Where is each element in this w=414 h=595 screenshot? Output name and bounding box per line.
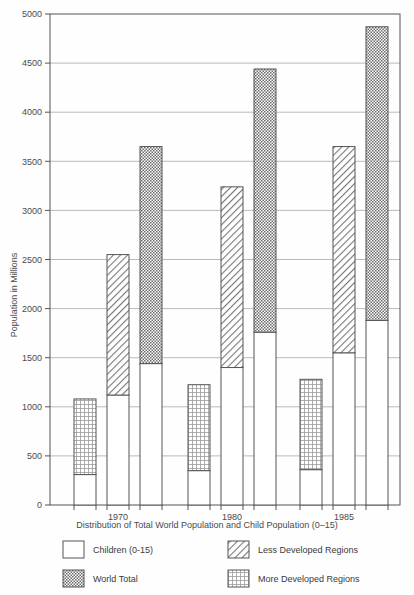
bar-segment-upper [107,255,129,395]
bar-segment-children [188,471,210,505]
legend-label-children-0-15: Children (0-15) [93,545,153,555]
bar-segment-upper [74,399,96,475]
bar-segment-upper [221,187,243,368]
y-tick-label: 5000 [22,9,42,19]
bar-1970-more-developed-regions [74,399,96,505]
bar-segment-upper [366,27,388,321]
legend-swatch-children-0-15 [63,541,84,558]
bar-segment-children [107,395,129,505]
bar-segment-upper [300,379,322,469]
bars-group [74,27,388,505]
legend-swatch-less-developed-regions [228,541,249,558]
bar-segment-children [221,368,243,505]
y-tick-label: 4000 [22,107,42,117]
population-bar-chart: Population in Millions 05001000150020002… [0,0,414,595]
bar-segment-children [300,470,322,505]
bar-segment-upper [254,69,276,332]
y-tick-labels-group: 0500100015002000250030003500400045005000 [22,9,42,510]
bar-segment-children [140,364,162,505]
legend-label-less-developed-regions: Less Developed Regions [258,545,359,555]
bar-1980-world-total [254,69,276,505]
bar-1985-world-total [366,27,388,505]
y-tick-label: 3500 [22,157,42,167]
bar-segment-children [333,353,355,505]
bar-1985-less-developed-regions [333,147,355,505]
legend-label-world-total: World Total [93,574,138,584]
chart-figure: Population in Millions 05001000150020002… [0,0,414,595]
bar-1970-less-developed-regions [107,255,129,505]
legend-swatch-more-developed-regions [228,570,249,587]
bar-1980-more-developed-regions [188,385,210,505]
y-tick-label: 0 [37,500,42,510]
y-tick-label: 1000 [22,402,42,412]
bar-segment-children [254,332,276,505]
chart-caption: Distribution of Total World Population a… [76,520,337,530]
bar-1980-less-developed-regions [221,187,243,505]
y-tick-label: 4500 [22,58,42,68]
bar-segment-upper [333,147,355,353]
bar-segment-children [74,475,96,505]
y-tick-label: 500 [27,451,42,461]
y-tick-label: 1500 [22,353,42,363]
bar-segment-upper [140,147,162,364]
legend-label-more-developed-regions: More Developed Regions [258,574,360,584]
bar-segment-children [366,320,388,505]
y-axis-title: Population in Millions [9,252,19,337]
y-tick-label: 2500 [22,255,42,265]
legend: Children (0-15) Less Developed Regions W… [63,541,360,587]
y-tick-label: 3000 [22,206,42,216]
bar-1985-more-developed-regions [300,379,322,505]
bar-1970-world-total [140,147,162,505]
bar-segment-upper [188,385,210,471]
legend-swatch-world-total [63,570,84,587]
y-tick-label: 2000 [22,304,42,314]
